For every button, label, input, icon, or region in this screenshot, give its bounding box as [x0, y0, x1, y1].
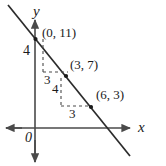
point-label-3-7: (3, 7)	[70, 58, 98, 71]
y-axis-label: y	[33, 4, 40, 19]
x-axis-label: x	[138, 120, 145, 135]
slope-triangle-2-run-label: 3	[69, 107, 76, 120]
slope-triangle-2-rise-label: 4	[52, 82, 59, 95]
point-label-6-3: (6, 3)	[96, 88, 124, 101]
slope-triangle-1-run-label: 3	[44, 73, 51, 86]
linear-graph-figure: y x 0 4 (0, 11) (3, 7) (6, 3) 3 4 3	[0, 0, 166, 166]
point-label-0-11: (0, 11)	[42, 26, 76, 39]
data-point-6-3	[89, 105, 93, 109]
y-axis-tick-label-4: 4	[23, 44, 30, 58]
data-point-3-7	[64, 74, 68, 78]
origin-label: 0	[25, 131, 32, 145]
data-point-0-11	[33, 37, 37, 41]
